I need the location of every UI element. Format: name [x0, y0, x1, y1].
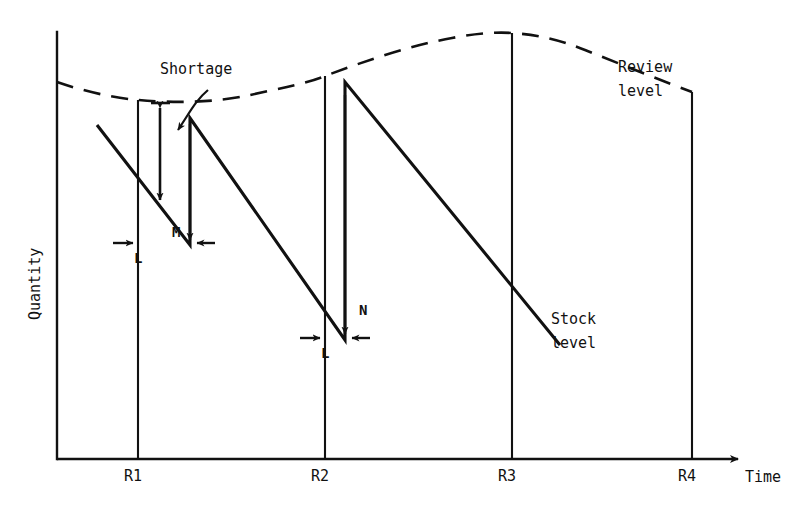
x-axis-label: Time [745, 468, 781, 487]
shortage-annotation-label: Shortage [160, 60, 232, 79]
x-tick-label-r1: R1 [124, 467, 142, 486]
lead-time-label-l1: L [134, 250, 142, 268]
order-quantity-label-n: N [359, 302, 367, 320]
review-level-label-line2: level [618, 82, 663, 101]
review-level-curve [57, 33, 692, 102]
y-axis-label: Quantity [26, 248, 45, 320]
lead-time-label-l2: L [321, 345, 329, 363]
x-tick-label-r4: R4 [678, 467, 696, 486]
stock-level-label-line2: level [551, 334, 596, 353]
order-quantity-m-measure [190, 124, 215, 243]
review-level-label-line1: Review [618, 58, 672, 77]
order-quantity-label-m: M [172, 224, 180, 242]
stock-control-diagram: Quantity Time R1 R2 R3 R4 Shortage Revie… [0, 0, 803, 525]
x-tick-label-r3: R3 [498, 467, 516, 486]
review-point-lines [138, 33, 692, 459]
diagram-canvas [0, 0, 803, 525]
shortage-measure [151, 90, 208, 200]
stock-level-path [97, 82, 560, 345]
stock-level-label-line1: Stock [551, 310, 596, 329]
x-tick-label-r2: R2 [311, 467, 329, 486]
